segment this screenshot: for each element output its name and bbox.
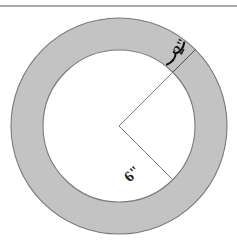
- annulus-diagram: 2" 6": [0, 0, 237, 247]
- annulus-figure-container: 2" 6": [0, 0, 237, 247]
